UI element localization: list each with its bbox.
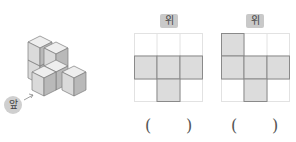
top-view-label-1: 위 — [160, 14, 178, 28]
front-label: 앞 — [4, 96, 22, 114]
answer-close-paren-1: ) — [186, 118, 192, 134]
top-view-label-2: 위 — [246, 14, 264, 28]
top-view-grid-1 — [134, 33, 203, 102]
answer-blank-1[interactable] — [153, 116, 185, 136]
answer-close-paren-2: ) — [272, 118, 278, 134]
cube-stack-figure — [0, 0, 120, 142]
answer-blank-2[interactable] — [239, 116, 271, 136]
answer-open-paren-1: ( — [145, 118, 151, 134]
top-view-grid-2 — [221, 33, 290, 102]
arrow-icon — [24, 94, 33, 100]
answer-open-paren-2: ( — [231, 118, 237, 134]
